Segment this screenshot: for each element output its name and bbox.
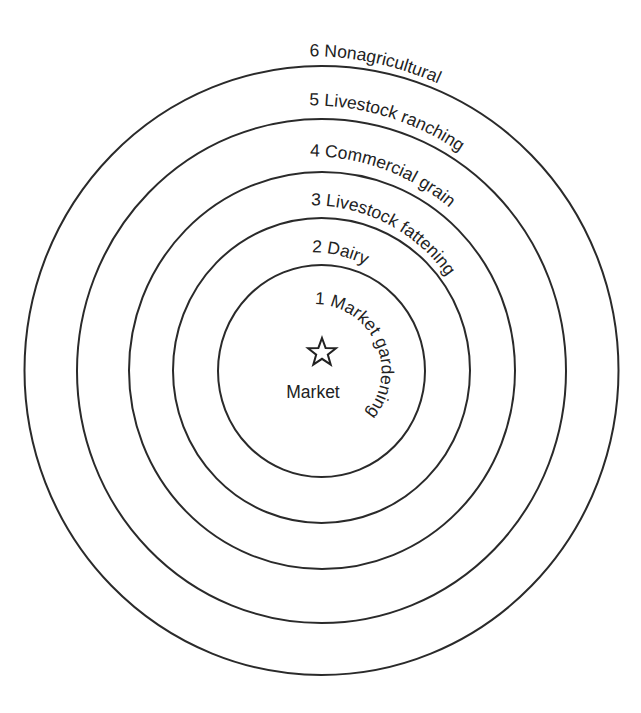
ring-boundary-3-4 [129,172,515,569]
zone-label-2: 2 Dairy [312,236,373,268]
von-thunen-diagram: 6 Nonagricultural 5 Livestock ranching 4… [0,0,641,713]
zone-label-1: 1 Market gardening [315,288,398,423]
zone-label-6: 6 Nonagricultural [309,40,444,87]
center-market-label: Market [286,382,340,402]
star-icon [308,338,336,365]
